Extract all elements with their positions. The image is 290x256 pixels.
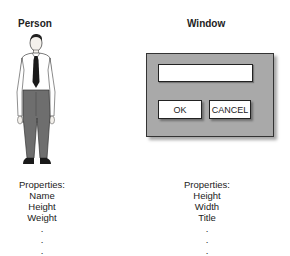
person-pants: [23, 90, 50, 158]
continuation-dot: .: [0, 223, 84, 234]
person-properties-label: Properties:: [0, 179, 84, 190]
continuation-dot: .: [164, 223, 250, 234]
person-title: Person: [18, 18, 52, 29]
person-figure-icon: [10, 30, 70, 172]
continuation-dot: .: [0, 234, 84, 245]
continuation-dot: .: [164, 245, 250, 256]
person-property-weight: Weight: [0, 212, 84, 223]
window-text-field[interactable]: [158, 64, 253, 82]
person-tie: [33, 56, 40, 88]
cancel-button[interactable]: CANCEL: [209, 100, 251, 119]
window-property-width: Width: [164, 201, 250, 212]
window-properties: Properties: Height Width Title . . .: [164, 179, 250, 256]
ok-button[interactable]: OK: [158, 100, 202, 119]
continuation-dot: .: [0, 245, 84, 256]
window-frame: OK CANCEL: [146, 53, 274, 137]
continuation-dot: .: [164, 234, 250, 245]
person-shoe-right: [40, 158, 51, 164]
window-property-title: Title: [164, 212, 250, 223]
person-properties: Properties: Name Height Weight . . .: [0, 179, 84, 256]
window-property-height: Height: [164, 190, 250, 201]
person-property-name: Name: [0, 190, 84, 201]
window-properties-label: Properties:: [164, 179, 250, 190]
window-title: Window: [187, 18, 225, 29]
person-shoe-left: [23, 158, 34, 164]
person-property-height: Height: [0, 201, 84, 212]
